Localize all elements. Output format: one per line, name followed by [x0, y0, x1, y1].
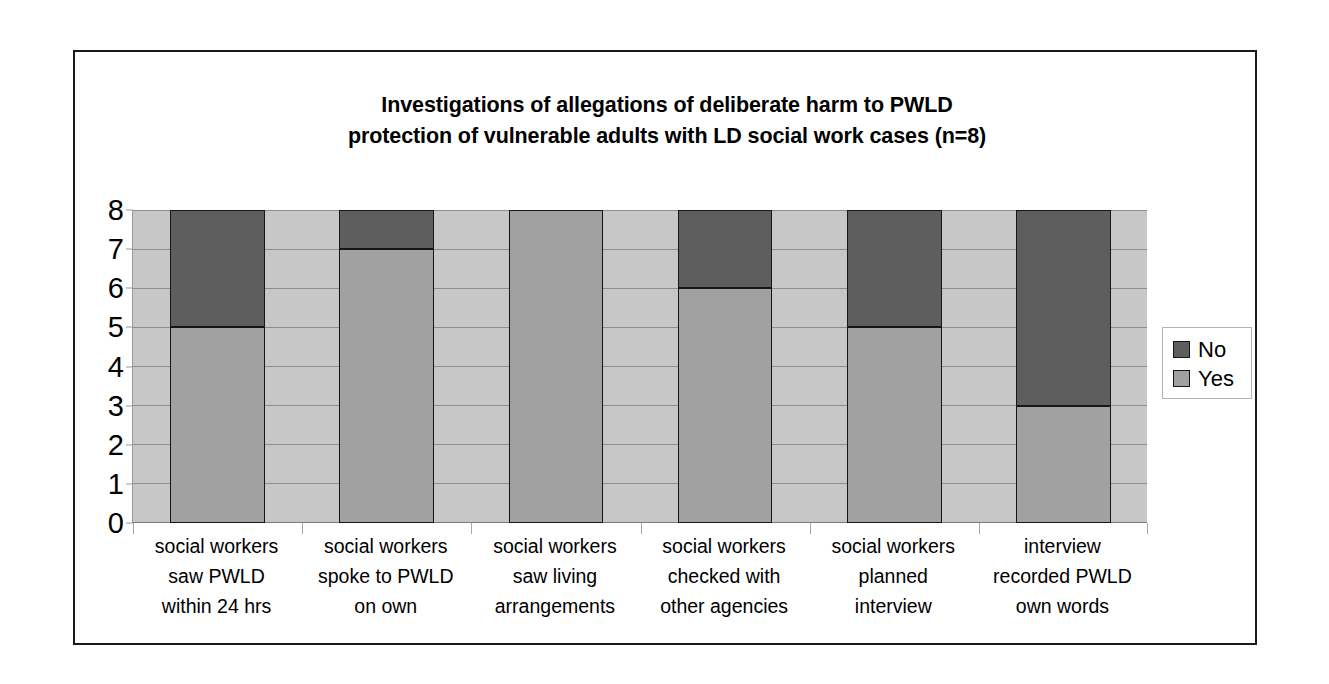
y-axis-tick-label: 1: [108, 469, 124, 498]
bar-segment-no[interactable]: [170, 210, 265, 327]
x-axis-category-label: social workersspoke to PWLDon own: [301, 531, 470, 631]
legend-swatch-icon: [1173, 370, 1190, 387]
bar-segment-yes[interactable]: [1016, 406, 1111, 523]
gridline-y-8: [133, 210, 1147, 211]
y-axis-tick-label: 4: [108, 352, 124, 381]
bar-column[interactable]: [847, 210, 942, 523]
bar-segment-yes[interactable]: [170, 327, 265, 523]
category-label-line: saw PWLD: [132, 561, 301, 591]
category-label-line: interview: [809, 591, 978, 621]
category-label-line: recorded PWLD: [978, 561, 1147, 591]
bar-segment-no[interactable]: [678, 210, 773, 288]
bar-segment-no[interactable]: [1016, 210, 1111, 406]
y-axis-tick-label: 2: [108, 430, 124, 459]
plot-area: 012345678: [132, 210, 1147, 523]
chart-frame: Investigations of allegations of deliber…: [73, 50, 1257, 645]
category-label-line: social workers: [301, 531, 470, 561]
legend-item-no[interactable]: No: [1173, 336, 1251, 363]
gridline-y-4: [133, 366, 1147, 367]
category-label-line: social workers: [809, 531, 978, 561]
category-label-line: on own: [301, 591, 470, 621]
category-label-line: social workers: [640, 531, 809, 561]
category-label-line: social workers: [470, 531, 639, 561]
x-axis-category-label: social workerssaw livingarrangements: [470, 531, 639, 631]
y-axis-tick-label: 6: [108, 274, 124, 303]
y-tick-mark-8: [126, 210, 133, 211]
y-tick-mark-0: [126, 523, 133, 524]
bar-segment-yes[interactable]: [339, 249, 434, 523]
bar-column[interactable]: [509, 210, 604, 523]
gridline-y-5: [133, 327, 1147, 328]
bar-segment-yes[interactable]: [678, 288, 773, 523]
y-axis-tick-label: 0: [108, 509, 124, 538]
x-tick-mark: [1147, 523, 1148, 534]
gridline-y-6: [133, 288, 1147, 289]
bar-column[interactable]: [339, 210, 434, 523]
x-axis-category-label: social workersplannedinterview: [809, 531, 978, 631]
y-axis-tick-label: 7: [108, 235, 124, 264]
gridline-y-3: [133, 405, 1147, 406]
x-axis-category-labels: social workerssaw PWLDwithin 24 hrssocia…: [132, 531, 1147, 631]
x-axis-category-label: social workerschecked withother agencies: [640, 531, 809, 631]
bar-column[interactable]: [1016, 210, 1111, 523]
bar-segment-yes[interactable]: [847, 327, 942, 523]
bar-segment-yes[interactable]: [509, 210, 604, 523]
y-tick-mark-5: [126, 327, 133, 328]
category-label-line: arrangements: [470, 591, 639, 621]
y-tick-mark-4: [126, 366, 133, 367]
category-label-line: interview: [978, 531, 1147, 561]
legend-label: No: [1198, 339, 1226, 361]
category-label-line: within 24 hrs: [132, 591, 301, 621]
chart-title: Investigations of allegations of deliber…: [75, 90, 1259, 151]
category-label-line: other agencies: [640, 591, 809, 621]
chart-legend: NoYes: [1162, 327, 1252, 399]
gridline-y-2: [133, 444, 1147, 445]
bar-segment-no[interactable]: [847, 210, 942, 327]
category-label-line: saw living: [470, 561, 639, 591]
chart-title-line-2: protection of vulnerable adults with LD …: [75, 121, 1259, 152]
gridline-y-7: [133, 249, 1147, 250]
y-tick-mark-7: [126, 249, 133, 250]
y-tick-mark-2: [126, 444, 133, 445]
y-tick-mark-3: [126, 405, 133, 406]
category-label-line: social workers: [132, 531, 301, 561]
y-axis-tick-label: 5: [108, 313, 124, 342]
legend-label: Yes: [1198, 368, 1234, 390]
bar-column[interactable]: [678, 210, 773, 523]
category-label-line: checked with: [640, 561, 809, 591]
x-axis-category-label: social workerssaw PWLDwithin 24 hrs: [132, 531, 301, 631]
y-tick-mark-6: [126, 288, 133, 289]
legend-swatch-icon: [1173, 341, 1190, 358]
chart-title-line-1: Investigations of allegations of deliber…: [75, 90, 1259, 121]
category-label-line: spoke to PWLD: [301, 561, 470, 591]
y-axis-tick-label: 8: [108, 196, 124, 225]
category-label-line: planned: [809, 561, 978, 591]
category-label-line: own words: [978, 591, 1147, 621]
y-axis-tick-label: 3: [108, 391, 124, 420]
gridline-y-1: [133, 483, 1147, 484]
x-axis-category-label: interviewrecorded PWLDown words: [978, 531, 1147, 631]
legend-item-yes[interactable]: Yes: [1173, 365, 1251, 392]
bar-column[interactable]: [170, 210, 265, 523]
bar-segment-no[interactable]: [339, 210, 434, 249]
y-tick-mark-1: [126, 483, 133, 484]
